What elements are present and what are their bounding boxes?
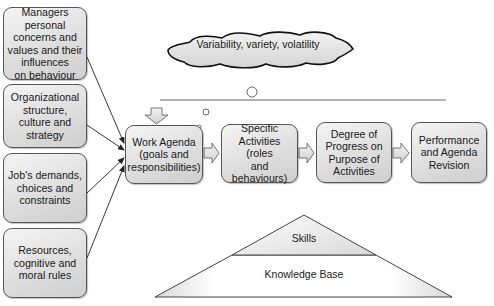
down-block-arrow bbox=[145, 108, 168, 124]
process-label: Specific Activities (roles and behaviour… bbox=[224, 122, 295, 185]
influence-box-job-demands: Job's demands, choices and constraints bbox=[3, 153, 87, 223]
cloud-label: Variability, variety, volatility bbox=[163, 38, 353, 50]
connector-arrow bbox=[87, 158, 124, 193]
connector-arrow bbox=[87, 125, 124, 150]
influence-connectors bbox=[87, 57, 124, 258]
thought-bubble-large bbox=[247, 87, 257, 97]
influence-box-resources: Resources, cognitive and moral rules bbox=[3, 228, 87, 298]
influence-label: Resources, cognitive and moral rules bbox=[14, 244, 76, 282]
process-label: Performance and Agenda Revision bbox=[419, 134, 480, 172]
process-box-performance-revision: Performance and Agenda Revision bbox=[411, 122, 487, 183]
pyramid-label-skills: Skills bbox=[264, 232, 344, 244]
pyramid bbox=[155, 215, 452, 297]
influence-box-organizational-structure: Organizational structure, culture and st… bbox=[3, 84, 87, 148]
right-block-arrow-2 bbox=[299, 143, 314, 163]
pyramid-label-knowledge-base: Knowledge Base bbox=[234, 268, 374, 280]
right-block-arrow-1 bbox=[204, 143, 219, 163]
process-box-degree-of-progress: Degree of Progress on Purpose of Activit… bbox=[316, 122, 392, 183]
influence-label: Job's demands, choices and constraints bbox=[8, 169, 82, 207]
thought-bubble-medium bbox=[203, 109, 209, 115]
connector-arrow bbox=[87, 166, 124, 258]
connector-arrow bbox=[87, 57, 124, 143]
process-label: Degree of Progress on Purpose of Activit… bbox=[325, 128, 382, 178]
process-box-specific-activities: Specific Activities (roles and behaviour… bbox=[221, 124, 298, 183]
influence-label: Managers personal concerns and values an… bbox=[8, 6, 83, 81]
right-block-arrow-3 bbox=[393, 143, 409, 163]
influence-box-managers-values: Managers personal concerns and values an… bbox=[3, 7, 87, 80]
process-box-work-agenda: Work Agenda (goals and responsibilities) bbox=[125, 125, 203, 184]
process-label: Work Agenda (goals and responsibilities) bbox=[128, 136, 201, 174]
influence-label: Organizational structure, culture and st… bbox=[11, 91, 79, 141]
